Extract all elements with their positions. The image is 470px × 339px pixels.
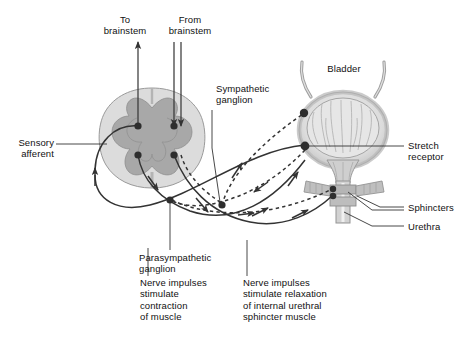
leader-sympathetic-ganglion: [212, 110, 220, 202]
label-to-brainstem: To brainstem: [94, 14, 156, 37]
leader-urethra: [344, 212, 404, 226]
label-relaxation-note: Nerve impulses stimulate relaxation of i…: [243, 277, 373, 322]
sympathetic-ganglion-dot: [218, 201, 225, 208]
sphincter-urethra-group: [304, 181, 384, 223]
label-stretch-receptor: Stretch receptor: [408, 140, 468, 163]
label-sensory-afferent: Sensory afferent: [0, 137, 54, 160]
label-urethra: Urethra: [408, 221, 468, 232]
spinal-cord-group: [99, 88, 205, 188]
dorsal-synapse-right: [170, 122, 177, 129]
sympathetic-efferent-upper: [222, 114, 303, 205]
sympathetic-lower-arrow: [254, 182, 268, 192]
sphincter-terminal-dot-1: [330, 186, 336, 192]
sympathetic-to-sphincter: [172, 190, 330, 213]
sympathetic-sphincter-arrow: [238, 213, 254, 215]
label-bladder: Bladder: [314, 63, 374, 74]
ventral-synapse-right: [170, 151, 177, 158]
parasympathetic-arrow-2: [252, 208, 268, 216]
pelvic-floor-left: [304, 181, 330, 196]
label-from-brainstem: From brainstem: [155, 14, 225, 37]
label-sympathetic-ganglion: Sympathetic ganglion: [216, 83, 306, 106]
sphincter-terminal-dot-2: [330, 193, 336, 199]
bladder-sympathetic-dot: [300, 109, 308, 117]
parasympathetic-ganglion-dot: [166, 196, 173, 203]
label-sphincters: Sphincters: [408, 202, 470, 213]
label-contraction-note: Nerve impulses stimulate contraction of …: [140, 277, 240, 322]
label-parasympathetic-ganglion: Parasympathetic ganglion: [139, 252, 249, 275]
leader-sphincters-1: [357, 196, 404, 207]
ventral-synapse-left: [134, 151, 141, 158]
dorsal-synapse-left: [134, 122, 141, 129]
bladder-group: [299, 62, 387, 183]
